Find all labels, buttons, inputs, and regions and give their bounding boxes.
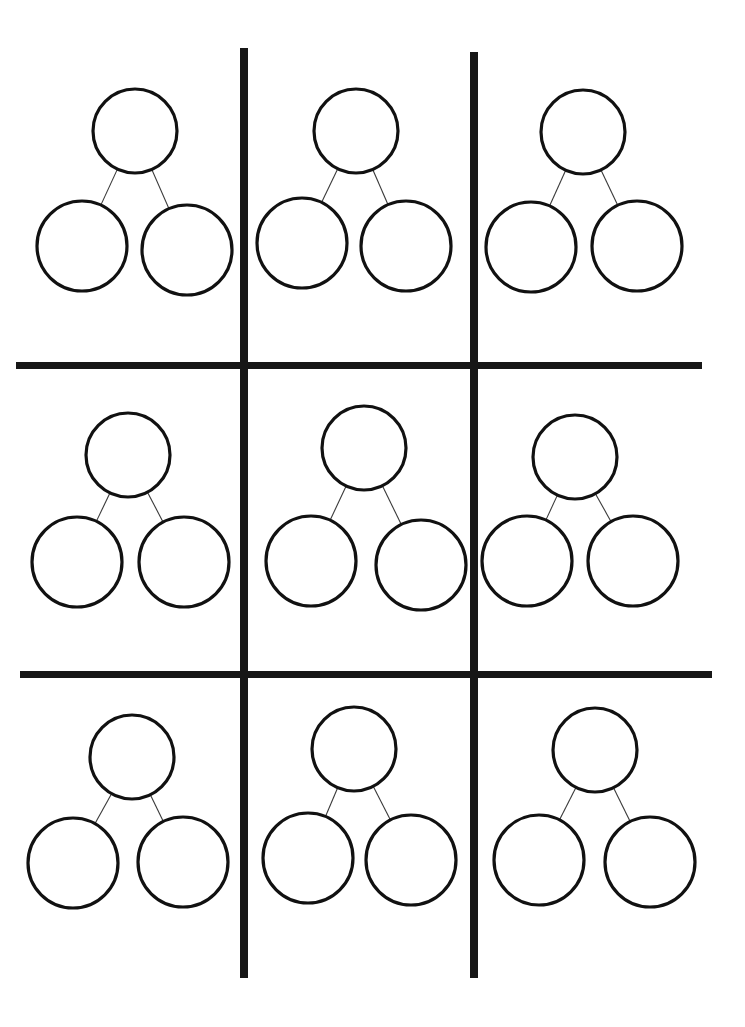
bond-connector-left — [96, 493, 110, 521]
bond-left-child-circle[interactable] — [28, 818, 118, 908]
bond-r1c1[interactable] — [37, 89, 232, 295]
bond-r2c3[interactable] — [482, 415, 678, 606]
horizontal-divider-2 — [20, 671, 712, 678]
bond-connector-left — [95, 794, 112, 824]
bond-r3c2[interactable] — [263, 707, 456, 905]
bond-connector-left — [325, 788, 337, 817]
bond-connector-right — [152, 169, 169, 208]
bond-connector-left — [330, 486, 346, 520]
bond-parent-circle[interactable] — [86, 413, 170, 497]
bond-r3c3[interactable] — [494, 708, 695, 907]
bond-r3c1[interactable] — [28, 715, 228, 908]
bond-connector-right — [150, 795, 163, 822]
bond-parent-circle[interactable] — [312, 707, 396, 791]
bond-right-child-circle[interactable] — [361, 201, 451, 291]
bond-connector-right — [614, 788, 631, 822]
bond-r1c3[interactable] — [486, 90, 682, 292]
horizontal-divider-1 — [16, 362, 702, 369]
number-bond-group — [28, 89, 695, 908]
bond-parent-circle[interactable] — [314, 89, 398, 173]
bond-connector-right — [147, 492, 163, 522]
bond-right-child-circle[interactable] — [142, 205, 232, 295]
worksheet-page — [0, 0, 745, 1027]
bond-connector-right — [373, 786, 390, 820]
vertical-divider-2 — [470, 52, 478, 978]
vertical-divider-1 — [240, 48, 248, 978]
bond-right-child-circle[interactable] — [605, 817, 695, 907]
bond-parent-circle[interactable] — [541, 90, 625, 174]
bond-connector-left — [546, 495, 558, 520]
bond-left-child-circle[interactable] — [32, 517, 122, 607]
bond-left-child-circle[interactable] — [494, 815, 584, 905]
bond-right-child-circle[interactable] — [138, 817, 228, 907]
bond-connector-left — [559, 787, 576, 819]
grid-divider-lines — [16, 48, 712, 978]
bond-r2c1[interactable] — [32, 413, 229, 607]
bond-parent-circle[interactable] — [93, 89, 177, 173]
bond-left-child-circle[interactable] — [257, 198, 347, 288]
bond-left-child-circle[interactable] — [263, 813, 353, 903]
bond-left-child-circle[interactable] — [482, 516, 572, 606]
bond-connector-left — [550, 170, 566, 206]
bond-connector-right — [373, 170, 388, 205]
bond-left-child-circle[interactable] — [37, 201, 127, 291]
bond-parent-circle[interactable] — [553, 708, 637, 792]
bond-connector-right — [382, 486, 401, 525]
bond-connector-left — [101, 169, 118, 205]
bond-parent-circle[interactable] — [90, 715, 174, 799]
bond-left-child-circle[interactable] — [266, 516, 356, 606]
bond-parent-circle[interactable] — [533, 415, 617, 499]
bond-right-child-circle[interactable] — [139, 517, 229, 607]
bond-connector-right — [601, 170, 618, 205]
bond-parent-circle[interactable] — [322, 406, 406, 490]
bond-left-child-circle[interactable] — [486, 202, 576, 292]
bond-r2c2[interactable] — [266, 406, 466, 610]
bond-right-child-circle[interactable] — [588, 516, 678, 606]
bond-right-child-circle[interactable] — [366, 815, 456, 905]
worksheet-canvas — [0, 0, 745, 1027]
bond-r1c2[interactable] — [257, 89, 451, 291]
bond-right-child-circle[interactable] — [592, 201, 682, 291]
bond-connector-right — [595, 494, 611, 522]
bond-right-child-circle[interactable] — [376, 520, 466, 610]
bond-connector-left — [322, 169, 338, 203]
